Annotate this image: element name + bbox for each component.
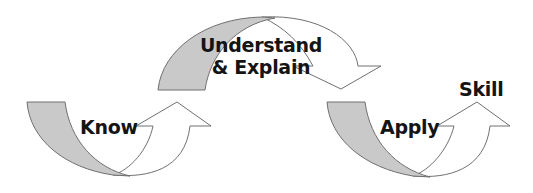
apply-label: Apply	[380, 118, 439, 137]
know-arrow-body	[113, 102, 211, 176]
apply-arrow-ribbon	[327, 102, 430, 177]
understand-label-line2: & Explain	[186, 56, 336, 78]
know-label: Know	[80, 118, 138, 137]
skill-label: Skill	[459, 80, 503, 99]
apply-arrow	[327, 102, 510, 177]
learning-progression-diagram	[0, 0, 533, 193]
understand-label: Understand & Explain	[186, 34, 336, 78]
apply-arrow-body	[413, 102, 510, 177]
know-arrow-ribbon	[27, 102, 130, 176]
know-arrow	[27, 102, 211, 176]
understand-label-line1: Understand	[186, 34, 336, 56]
